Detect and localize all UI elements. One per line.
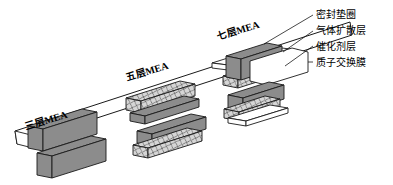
callout-label-catalyst-layer: 催化剂层 [316,42,356,52]
figure-canvas: 三层MEA 五层MEA 七层MEA 密封垫圈 气体扩散层 催化剂层 质子交换膜 [0,0,393,185]
callout-label-gasket: 密封垫圈 [316,10,356,20]
callout-label-gas-diffusion-layer: 气体扩散层 [316,26,366,36]
stack-seven-layer [212,43,308,126]
callout-label-proton-exchange-membrane: 质子交换膜 [316,58,366,68]
